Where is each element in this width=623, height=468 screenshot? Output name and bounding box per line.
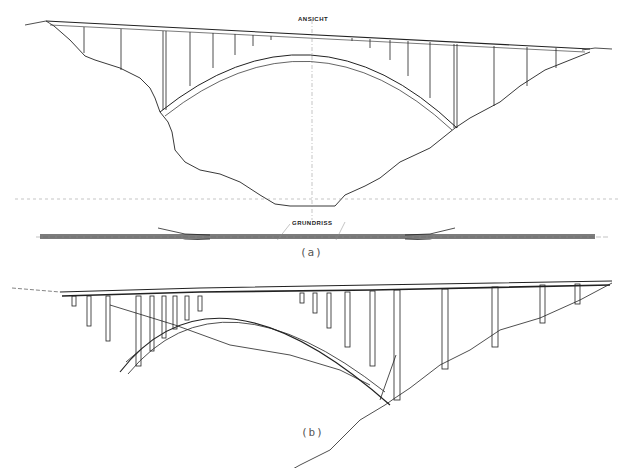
bridge-figure: ANSICHT GRUNDRISS (a) bbox=[0, 0, 623, 468]
plan-label: GRUNDRISS bbox=[292, 220, 333, 226]
elevation-view bbox=[25, 20, 612, 220]
panel-a-drawing bbox=[0, 0, 623, 240]
caption-a: (a) bbox=[300, 246, 323, 259]
elevation-label: ANSICHT bbox=[298, 16, 328, 22]
caption-b: (b) bbox=[301, 426, 324, 439]
